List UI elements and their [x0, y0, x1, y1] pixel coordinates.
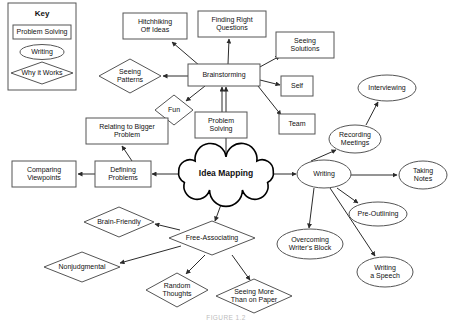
key-legend: KeyProblem SolvingWritingWhy it Works — [8, 3, 76, 90]
node-label: Pre-Outlining — [358, 210, 399, 218]
node-label: DefiningProblems — [108, 166, 138, 181]
node-free-associating[interactable]: Free-Associating — [169, 221, 255, 255]
node-label: ProblemSolving — [208, 117, 234, 133]
node-label: Seeing MoreThan on Paper — [231, 288, 278, 304]
node-label: Brain-Friendly — [97, 218, 141, 226]
node-relating-to-bigger-problem[interactable]: Relating to BiggerProblem — [86, 118, 168, 144]
node-label: Free-Associating — [186, 234, 239, 242]
node-label: TakingNotes — [413, 167, 433, 182]
node-label: Brainstorming — [202, 71, 245, 79]
edge-line — [311, 150, 336, 161]
node-label: Writing — [31, 48, 53, 56]
edge-free-associating-to-nonjudgmental — [120, 246, 181, 263]
edge-brainstorming-to-hitchhiking-off-ideas — [172, 42, 200, 66]
node-label: Writing — [313, 170, 335, 178]
node-label: RecordingMeetings — [339, 131, 371, 147]
node-finding-right-questions[interactable]: Finding RightQuestions — [198, 11, 266, 37]
node-team[interactable]: Team — [279, 114, 315, 134]
node-label: Problem Solving — [17, 28, 68, 36]
edge-line — [120, 246, 181, 263]
node-brain-friendly[interactable]: Brain-Friendly — [84, 207, 154, 237]
edge-line — [172, 42, 200, 66]
edge-line — [186, 255, 205, 274]
node-seeing-solutions[interactable]: SeeingSolutions — [276, 32, 334, 58]
edge-free-associating-to-brain-friendly — [155, 224, 180, 230]
node-label: Why it Works — [21, 69, 63, 77]
edge-brainstorming-to-finding-right-questions — [228, 39, 229, 64]
node-brainstorming[interactable]: Brainstorming — [188, 64, 260, 86]
node-label: Interviewing — [368, 84, 405, 92]
node-label: Finding RightQuestions — [211, 16, 252, 32]
node-pre-outlining[interactable]: Pre-Outlining — [349, 202, 407, 226]
figure-caption: FIGURE 1.2 — [206, 314, 245, 321]
edge-writing-to-overcoming-writers-block — [309, 188, 314, 228]
node-hitchhiking-off-ideas[interactable]: HitchhikingOff Ideas — [123, 13, 187, 39]
edge-free-associating-to-seeing-more-than-on-paper — [232, 255, 250, 280]
edge-line — [228, 39, 229, 64]
node-seeing-patterns[interactable]: SeeingPatterns — [99, 59, 161, 93]
node-writing-a-speech[interactable]: Writinga Speech — [357, 257, 413, 287]
edge-brainstorming-to-fun — [186, 86, 205, 101]
edge-line — [122, 146, 132, 161]
node-label: SeeingPatterns — [117, 68, 144, 83]
edge-recording-meetings-to-interviewing — [366, 102, 378, 125]
node-taking-notes[interactable]: TakingNotes — [399, 161, 447, 189]
node-self[interactable]: Self — [281, 76, 313, 96]
edge-line — [186, 86, 205, 101]
node-label: Team — [288, 120, 305, 127]
edge-line — [232, 255, 250, 280]
node-random-thoughts[interactable]: RandomThoughts — [146, 273, 208, 307]
node-nonjudgmental[interactable]: Nonjudgmental — [44, 252, 120, 282]
nodes-layer: Idea MappingBrainstormingHitchhikingOff … — [12, 11, 447, 313]
node-label: Self — [291, 82, 303, 89]
edge-line — [366, 102, 378, 125]
key-title: Key — [35, 9, 50, 18]
edge-writing-to-pre-outlining — [337, 188, 358, 203]
key-item-rectangle: Problem Solving — [13, 25, 71, 39]
node-label: Fun — [168, 106, 180, 113]
idea-mapping-diagram: Idea MappingBrainstormingHitchhikingOff … — [0, 0, 452, 325]
node-label: Nonjudgmental — [58, 263, 106, 271]
node-recording-meetings[interactable]: RecordingMeetings — [329, 125, 381, 153]
node-overcoming-writers-block[interactable]: OvercomingWriter's Block — [277, 229, 343, 259]
node-label: OvercomingWriter's Block — [289, 236, 332, 251]
edge-brainstorming-to-team — [258, 86, 281, 115]
node-label: Idea Mapping — [199, 168, 253, 178]
edge-writing-to-recording-meetings — [311, 150, 336, 161]
node-comparing-viewpoints[interactable]: ComparingViewpoints — [12, 161, 76, 187]
edge-line — [337, 188, 358, 203]
node-defining-problems[interactable]: DefiningProblems — [95, 161, 151, 187]
node-interviewing[interactable]: Interviewing — [358, 75, 416, 101]
edge-free-associating-to-random-thoughts — [186, 255, 205, 274]
node-label: ComparingViewpoints — [27, 166, 61, 182]
edge-brainstorming-to-self — [260, 80, 280, 85]
node-label: RandomThoughts — [162, 282, 192, 298]
node-label: HitchhikingOff Ideas — [138, 18, 172, 33]
edge-line — [258, 86, 281, 115]
node-problem-solving[interactable]: ProblemSolving — [195, 112, 247, 138]
node-writing[interactable]: Writing — [297, 160, 351, 188]
edge-line — [260, 80, 280, 85]
mindmap-canvas: Idea MappingBrainstormingHitchhikingOff … — [0, 0, 452, 325]
edge-line — [155, 224, 180, 230]
node-label: SeeingSolutions — [291, 37, 320, 52]
edge-line — [309, 188, 314, 228]
node-label: Writinga Speech — [370, 264, 400, 280]
key-item-ellipse: Writing — [20, 45, 64, 60]
node-seeing-more-than-on-paper[interactable]: Seeing MoreThan on Paper — [216, 279, 292, 313]
edge-defining-problems-to-relating-to-bigger-problem — [122, 146, 132, 161]
